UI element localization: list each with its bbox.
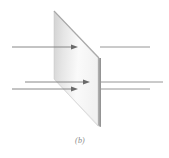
- plate-face: [54, 11, 98, 126]
- figure-caption: (b): [0, 136, 160, 145]
- plate-field-lines-diagram: [0, 0, 169, 158]
- plate-edge: [98, 58, 101, 127]
- field-lines-exiting: [100, 47, 163, 89]
- plate-surface: [54, 11, 101, 127]
